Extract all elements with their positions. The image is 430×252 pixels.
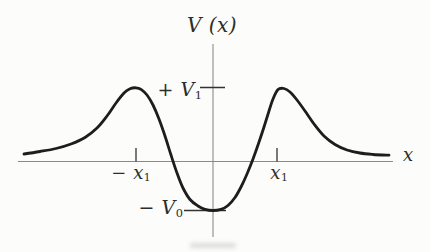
plot-canvas (0, 0, 430, 252)
y-axis-title-text: V (x) (187, 13, 237, 37)
posx1-label-text: x (270, 162, 281, 183)
potential-well-figure: V (x) + V1 − V0 − x1 x1 x (0, 0, 430, 252)
x-tick-label-x1: x1 (270, 164, 288, 182)
v0-label-subscript: 0 (176, 206, 183, 220)
v1-label-subscript: 1 (195, 88, 202, 102)
x-tick-label-minus-x1: − x1 (111, 164, 150, 182)
y-tick-label-plus-v1: + V1 (158, 80, 202, 99)
x-axis-title: x (403, 146, 414, 164)
potential-curve (24, 88, 389, 211)
v1-label-text: + V (158, 78, 195, 100)
y-axis-title: V (x) (187, 15, 237, 35)
v0-label-text: − V (139, 196, 176, 218)
negx1-label-text: − x (111, 162, 143, 183)
negx1-label-subscript: 1 (144, 171, 151, 184)
posx1-label-subscript: 1 (281, 171, 288, 184)
scan-artifact-caption-edge (190, 243, 236, 248)
x-axis-title-text: x (403, 144, 414, 165)
y-tick-label-minus-v0: − V0 (139, 198, 183, 217)
